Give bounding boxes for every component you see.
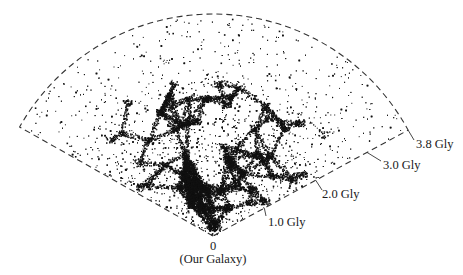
distance-label-3gly: 3.0 Gly bbox=[383, 159, 421, 172]
origin-label: 0 (Our Galaxy) bbox=[168, 240, 258, 266]
distance-label-1gly: 1.0 Gly bbox=[268, 216, 306, 229]
galaxy-wedge-figure: 1.0 Gly 2.0 Gly 3.0 Gly 3.8 Gly 0 (Our G… bbox=[0, 0, 463, 275]
distance-label-2gly: 2.0 Gly bbox=[322, 188, 360, 201]
wedge-plot bbox=[0, 0, 463, 275]
distance-label-3-8gly: 3.8 Gly bbox=[416, 138, 454, 151]
galaxy-points bbox=[31, 19, 401, 236]
origin-caption: (Our Galaxy) bbox=[168, 253, 258, 266]
